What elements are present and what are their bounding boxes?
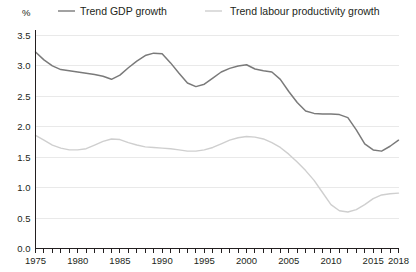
legend-label-1: Trend labour productivity growth: [230, 5, 380, 17]
line-chart: 0.00.51.01.52.02.53.03.5 197519801985199…: [0, 0, 416, 272]
x-tick-label: 1975: [25, 255, 46, 266]
axis-unit-label: %: [22, 7, 31, 18]
y-tick-label: 3.5: [17, 30, 30, 41]
x-tick-label: 1985: [109, 255, 130, 266]
y-tick-label: 1.0: [17, 182, 30, 193]
gridlines-group: [36, 36, 399, 219]
x-tick-labels-group: 1975198019851990199520002005201020152018: [25, 255, 409, 266]
chart-legend: Trend GDP growthTrend labour productivit…: [58, 5, 380, 17]
x-tick-label: 2005: [278, 255, 299, 266]
axes-group: [36, 30, 399, 249]
y-tick-label: 0.5: [17, 213, 30, 224]
y-tick-label: 2.0: [17, 121, 30, 132]
y-tick-label: 2.5: [17, 91, 30, 102]
x-tick-label: 2010: [320, 255, 341, 266]
x-tick-label: 1995: [194, 255, 215, 266]
x-tick-label: 2000: [236, 255, 257, 266]
y-tick-label: 1.5: [17, 152, 30, 163]
x-tick-label: 2018: [388, 255, 409, 266]
series-line-gdp-growth: [36, 52, 399, 151]
y-tick-label: 3.0: [17, 60, 30, 71]
x-tick-label: 2015: [363, 255, 384, 266]
y-tick-labels-group: 0.00.51.01.52.02.53.03.5: [17, 30, 30, 254]
series-line-labour-productivity-growth: [36, 135, 399, 212]
tick-marks-group: [36, 249, 399, 253]
x-tick-label: 1980: [67, 255, 88, 266]
chart-container: 0.00.51.01.52.02.53.03.5 197519801985199…: [0, 0, 416, 272]
x-tick-label: 1990: [152, 255, 173, 266]
y-tick-label: 0.0: [17, 243, 30, 254]
legend-label-0: Trend GDP growth: [80, 5, 167, 17]
